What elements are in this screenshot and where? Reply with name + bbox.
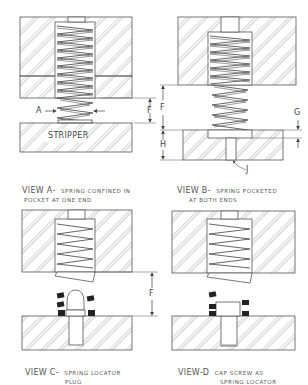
caption-view-b-title: SPRING POCKETED	[216, 188, 277, 194]
dimension-h-label: H	[160, 140, 166, 149]
caption-view-a-prefix: VIEW A-	[22, 186, 56, 195]
caption-view-b: VIEW B- SPRING POCKETED AT BOTH ENDS	[177, 178, 277, 203]
dimension-f-label-view-a: F	[147, 106, 152, 115]
caption-view-a: VIEW A- SPRING CONFINED IN POCKET AT ONE…	[22, 178, 131, 203]
view-b	[160, 17, 302, 170]
stripper-label: STRIPPER	[48, 131, 89, 140]
caption-view-c-line2: PLUG	[25, 379, 121, 385]
caption-view-d-title: CAP SCREW AS	[215, 370, 264, 376]
caption-view-c-title: SPRING LOCATOR	[64, 370, 121, 376]
view-c	[22, 210, 158, 350]
caption-view-c-prefix: VIEW C-	[25, 368, 59, 377]
view-d	[172, 211, 295, 350]
caption-view-a-title: SPRING CONFINED IN	[61, 188, 131, 194]
caption-view-b-prefix: VIEW B-	[177, 186, 211, 195]
dimension-a-label: A	[36, 106, 41, 115]
caption-view-a-line2: POCKET AT ONE END	[22, 197, 131, 203]
dimension-f-label-view-b: F	[160, 103, 165, 112]
caption-view-d-line2: SPRING LOCATOR	[178, 379, 277, 385]
caption-view-b-line2: AT BOTH ENDS	[177, 197, 277, 203]
caption-view-d: VIEW-D CAP SCREW AS SPRING LOCATOR	[178, 360, 277, 385]
caption-view-c: VIEW C- SPRING LOCATOR PLUG	[25, 360, 121, 385]
dimension-f-label-view-c: F	[149, 289, 154, 298]
dimension-j-label: J	[246, 165, 248, 174]
caption-view-d-prefix: VIEW-D	[178, 368, 209, 377]
dimension-g-label: G	[294, 108, 300, 117]
